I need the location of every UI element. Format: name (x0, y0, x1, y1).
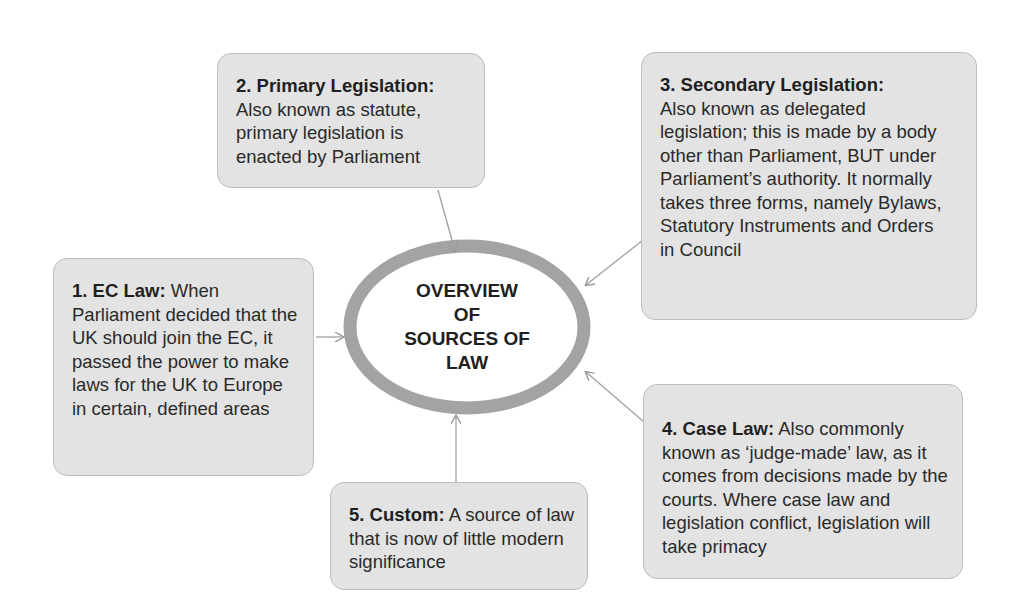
node-secondary-legislation: 3. Secondary Legislation: Also known as … (641, 52, 977, 320)
node-heading: 4. Case Law: (662, 418, 774, 439)
node-primary-legislation: 2. Primary Legislation: Also known as st… (217, 53, 485, 188)
node-body: Also known as delegated legislation; thi… (660, 98, 942, 260)
node-custom: 5. Custom: A source of law that is now o… (330, 482, 588, 590)
node-heading: 2. Primary Legislation: (236, 75, 434, 96)
node-heading: 1. EC Law: (72, 280, 166, 301)
arrow-secondary-to-center (586, 240, 643, 285)
node-ec-law: 1. EC Law: When Parliament decided that … (53, 258, 314, 476)
center-title: OVERVIEW OF SOURCES OF LAW (404, 279, 530, 375)
node-heading: 3. Secondary Legislation: (660, 74, 884, 95)
node-body: Also known as statute, primary legislati… (236, 99, 421, 167)
node-heading: 5. Custom: (349, 504, 445, 525)
center-node: OVERVIEW OF SOURCES OF LAW (344, 240, 590, 414)
node-case-law: 4. Case Law: Also commonly known as ‘jud… (643, 384, 963, 579)
arrow-caselaw-to-center (586, 372, 644, 422)
